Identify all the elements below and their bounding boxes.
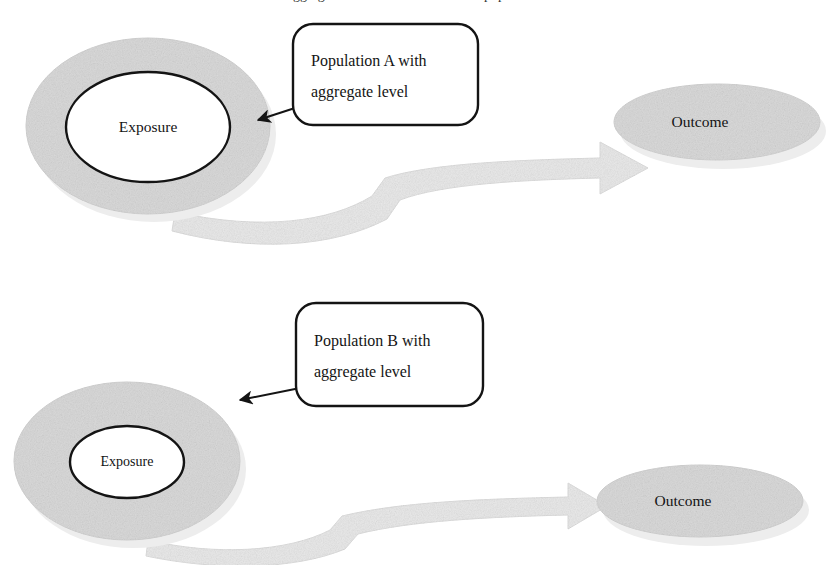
population-exposure-outcome-diagram: Exposure Outcome Population A with aggre… — [0, 0, 836, 565]
row-a: Exposure Outcome Population A with aggre… — [26, 24, 826, 244]
callout-line1-a: Population A with — [311, 52, 427, 70]
callout-a[interactable]: Population A with aggregate level — [258, 24, 478, 125]
exposure-label-b: Exposure — [101, 454, 154, 469]
row-b: Exposure Outcome Population B with aggre… — [14, 303, 809, 565]
callout-box-a[interactable] — [293, 24, 478, 125]
callout-line2-a: aggregate level — [311, 83, 409, 101]
callout-pointer-b — [240, 388, 300, 400]
callout-line1-b: Population B with — [314, 332, 430, 350]
callout-box-b[interactable] — [296, 303, 483, 406]
exposure-label-a: Exposure — [119, 118, 178, 135]
diagram-canvas: aggregate level is the same in both popu… — [0, 0, 836, 565]
callout-b[interactable]: Population B with aggregate level — [240, 303, 483, 406]
callout-line2-b: aggregate level — [314, 363, 412, 381]
outcome-label-b: Outcome — [655, 492, 712, 509]
outcome-label-a: Outcome — [672, 113, 729, 130]
